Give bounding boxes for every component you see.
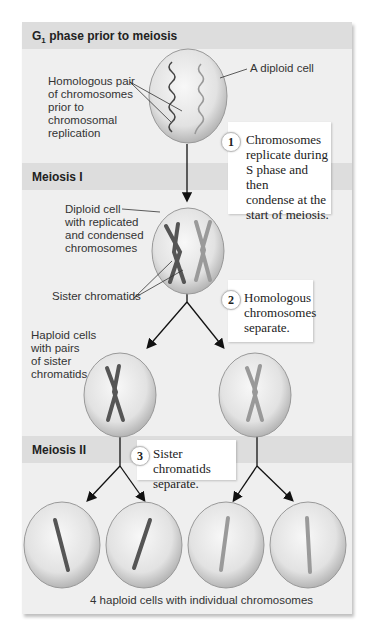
final-cell-4: [270, 502, 346, 588]
haploid-cell-right: [219, 353, 291, 437]
step-2-text: Homologous chromosomes separate.: [244, 290, 316, 335]
step-3-text: Sister chromatids separate.: [153, 446, 236, 491]
step-2-box: 2 Homologous chromosomes separate.: [228, 280, 313, 342]
diploid-cell-g1: [149, 49, 227, 143]
label-homologous-pair: Homologous pair of chromosomes prior to …: [48, 75, 135, 140]
final-cell-3: [188, 502, 264, 588]
final-cell-2: [106, 502, 182, 588]
step-1-box: 1 Chromosomes replicate during S phase a…: [228, 122, 331, 214]
label-final-caption: 4 haploid cells with individual chromoso…: [90, 594, 313, 607]
step-3-number: 3: [130, 446, 150, 466]
final-cell-1: [24, 502, 100, 588]
label-diploid-replicated: Diploid cell with replicated and condens…: [65, 203, 144, 255]
label-diploid-cell: A diploid cell: [250, 62, 314, 75]
label-haploid-pairs: Haploid cells with pairs of sister chrom…: [31, 329, 96, 381]
step-3-box: 3 Sister chromatids separate.: [137, 440, 236, 480]
label-sister-chromatids: Sister chromatids: [52, 290, 141, 303]
step-1-text: Chromosomes replicate during S phase and…: [246, 132, 331, 222]
step-2-number: 2: [221, 290, 241, 310]
step-1-number: 1: [221, 132, 241, 152]
